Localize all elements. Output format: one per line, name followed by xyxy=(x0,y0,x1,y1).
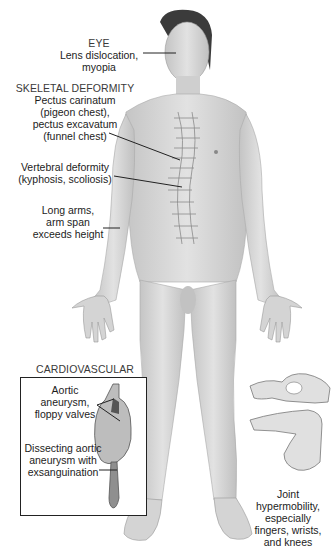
vertebral-line-2: (kyphosis, scoliosis) xyxy=(14,173,116,185)
joint-line-2: hypermobility, xyxy=(242,500,334,512)
dissecting-line-1: Dissecting aortic xyxy=(23,442,103,454)
skeletal-heading: SKELETAL DEFORMITY xyxy=(14,82,136,94)
eye-line-1: Lens dislocation, xyxy=(52,49,146,61)
arms-line-2: arm span xyxy=(30,216,106,228)
dissecting-line-3: exsanguination xyxy=(23,466,103,478)
joint-line-3: especially xyxy=(242,512,334,524)
aortic-line-2: aneurysm, xyxy=(31,396,99,408)
chest-line-1: Pectus carinatum xyxy=(14,94,136,106)
joint-label: Joint hypermobility, especially fingers,… xyxy=(242,488,334,548)
joint-line-5: and knees xyxy=(242,536,334,548)
vertebral-label: Vertebral deformity (kyphosis, scoliosis… xyxy=(14,161,116,185)
aortic-line-1: Aortic xyxy=(31,384,99,396)
chest-line-3: pectus excavatum xyxy=(14,118,136,130)
arms-line-3: exceeds height xyxy=(30,228,106,240)
arms-label: Long arms, arm span exceeds height xyxy=(30,204,106,240)
chest-line-2: (pigeon chest), xyxy=(14,106,136,118)
chest-line-4: (funnel chest) xyxy=(14,130,136,142)
joint-line-1: Joint xyxy=(242,488,334,500)
vertebral-line-1: Vertebral deformity xyxy=(14,161,116,173)
cardiovascular-heading: CARDIOVASCULAR xyxy=(30,363,140,375)
hypermobile-hands-illustration xyxy=(236,368,334,478)
joint-line-4: fingers, wrists, xyxy=(242,524,334,536)
eye-label: EYE Lens dislocation, myopia xyxy=(52,37,146,73)
cardiovascular-inset: Aortic aneurysm, floppy valves Dissectin… xyxy=(20,377,147,516)
dissecting-line-2: aneurysm with xyxy=(23,454,103,466)
arms-line-1: Long arms, xyxy=(30,204,106,216)
dissecting-label: Dissecting aortic aneurysm with exsangui… xyxy=(23,442,103,478)
eye-heading: EYE xyxy=(52,37,146,49)
aortic-label: Aortic aneurysm, floppy valves xyxy=(31,384,99,420)
aortic-line-3: floppy valves xyxy=(31,408,99,420)
skeletal-label: SKELETAL DEFORMITY Pectus carinatum (pig… xyxy=(14,82,136,142)
eye-line-2: myopia xyxy=(52,61,146,73)
